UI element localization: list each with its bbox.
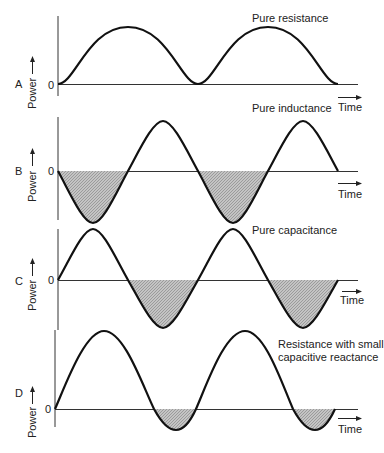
svg-text:Time: Time [338,188,362,200]
svg-text:Power: Power [26,170,38,202]
panel-caption: Pure resistance [252,12,328,24]
panel-caption: Pure inductance [252,102,332,114]
panel-label: A [15,78,23,90]
negative-power-region [198,171,268,223]
panel-d: D 0 Power Resistance with small capaciti… [15,330,384,438]
panel-label: D [15,387,23,399]
negative-power-region [58,171,128,223]
panel-caption: Resistance with small [278,338,384,350]
time-axis-label: Time [338,95,362,113]
panel-caption-line2: capacitive reactance [278,351,378,363]
negative-power-region [128,280,198,328]
panel-caption: Pure capacitance [252,224,337,236]
power-curve [58,27,338,84]
time-axis-label: Time [340,289,364,306]
power-axis-label: Power [26,386,38,438]
arrow-up-icon [30,56,35,62]
zero-label: 0 [48,165,54,177]
power-waveform-diagram: A 0 Power Pure resistance Time B 0 Power… [0,0,384,453]
negative-power-region [268,280,338,328]
zero-label: 0 [45,403,51,415]
svg-text:Time: Time [340,294,364,306]
arrow-right-icon [356,416,362,421]
power-axis-label: Power [26,258,38,311]
arrow-up-icon [30,386,35,392]
power-axis-label: Power [26,148,38,202]
panel-b: B 0 Power Pure inductance Time [15,102,362,223]
svg-text:Power: Power [26,279,38,311]
arrow-right-icon [356,95,362,100]
panel-c: C 0 Power Pure capacitance Time [15,224,364,330]
zero-label: 0 [48,274,54,286]
panel-label: C [15,275,23,287]
svg-text:Time: Time [338,423,362,435]
zero-label: 0 [48,79,54,91]
panel-a: A 0 Power Pure resistance Time [15,12,362,113]
arrow-up-icon [30,148,35,154]
panel-label: B [15,165,22,177]
svg-text:Time: Time [338,101,362,113]
power-axis-label: Power [26,56,38,109]
time-axis-label: Time [338,416,362,435]
svg-text:Power: Power [26,406,38,438]
time-axis-label: Time [338,181,362,200]
svg-text:Power: Power [26,77,38,109]
arrow-right-icon [356,181,362,186]
arrow-up-icon [30,258,35,264]
